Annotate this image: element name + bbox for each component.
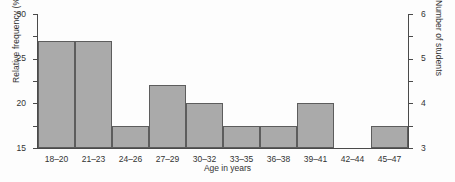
y-tick-label-left: 30 <box>17 10 26 19</box>
y-tick-right: 2 <box>408 103 413 104</box>
x-axis-line <box>37 148 409 149</box>
plot-area: 051015202530 0123456 18–2021–2324–2627–2… <box>38 14 408 148</box>
histogram-figure: Relative frequency (%) Number of student… <box>0 0 455 182</box>
y-tick-left: 30 <box>33 14 38 15</box>
bar <box>149 85 186 148</box>
y-tick-label-right: 5 <box>421 54 426 63</box>
y-tick-label-right: 3 <box>421 144 426 153</box>
bar <box>186 103 223 148</box>
bar <box>38 41 75 148</box>
y-axis-label-right: Number of students <box>434 0 444 98</box>
y-tick-right: 5 <box>408 36 413 37</box>
bar <box>75 41 112 148</box>
x-axis-label: Age in years <box>0 163 455 173</box>
y-tick-label-left: 25 <box>17 54 26 63</box>
bar <box>371 126 408 148</box>
y-tick-label-right: 4 <box>421 99 426 108</box>
y-tick-left: 0 <box>33 148 38 149</box>
y-tick-right: 4 <box>408 59 413 60</box>
y-tick-left: 25 <box>33 36 38 37</box>
y-tick-right: 1 <box>408 126 413 127</box>
y-tick-right: 6 <box>408 14 413 15</box>
y-tick-label-right: 6 <box>421 10 426 19</box>
bar <box>112 126 149 148</box>
bar <box>260 126 297 148</box>
y-tick-right: 0 <box>408 148 413 149</box>
y-tick-right: 3 <box>408 81 413 82</box>
y-tick-label-left: 20 <box>17 99 26 108</box>
y-tick-label-left: 15 <box>17 144 26 153</box>
bar <box>297 103 334 148</box>
bar <box>223 126 260 148</box>
